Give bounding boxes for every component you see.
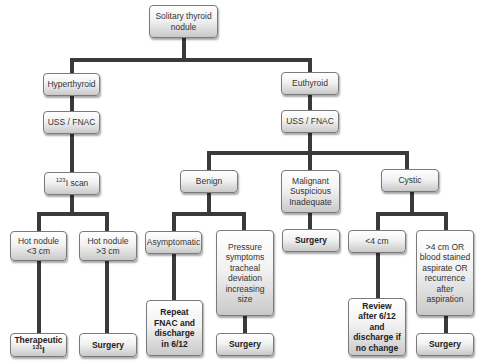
node-label: Benign: [196, 176, 222, 187]
node-label: Solitary thyroid nodule: [152, 11, 215, 32]
node-repeat-fnac: Repeat FNAC and discharge in 6/12: [146, 300, 203, 356]
node-label: Surgery: [429, 339, 461, 350]
node-label: 123I scan: [56, 178, 89, 189]
connector: [308, 58, 312, 72]
connector: [376, 212, 380, 230]
node-iodine-scan: 123I scan: [44, 172, 100, 195]
connector: [70, 58, 312, 62]
node-label: <4 cm: [365, 236, 388, 247]
node-root: Solitary thyroid nodule: [149, 5, 218, 38]
node-label-suffix: I: [42, 345, 44, 355]
node-label: Surgery: [295, 235, 327, 246]
node-large-cyst: >4 cm OR blood stained aspirate OR recur…: [416, 230, 474, 316]
node-label: Repeat FNAC and discharge in 6/12: [153, 307, 196, 349]
node-label: Cystic: [398, 175, 421, 186]
node-label-text: I scan: [66, 178, 89, 188]
connector: [308, 213, 312, 229]
node-label: Surgery: [229, 339, 261, 350]
connector: [207, 151, 211, 170]
connector: [405, 151, 409, 169]
node-label: Review after 6/12 and discharge if no ch…: [352, 301, 402, 354]
connector: [70, 134, 74, 172]
node-label: Asymptomatic: [147, 237, 200, 248]
node-hyperthyroid: Hyperthyroid: [43, 73, 100, 96]
connector: [243, 316, 247, 333]
node-benign: Benign: [180, 170, 238, 193]
node-label: Euthyroid: [292, 78, 328, 89]
node-label: Hyperthyroid: [47, 79, 95, 90]
node-small-cyst: <4 cm: [348, 230, 406, 253]
connector: [207, 151, 409, 155]
node-cystic: Cystic: [381, 169, 439, 192]
node-hot-nodule-large: Hot nodule >3 cm: [79, 231, 137, 261]
connector: [172, 212, 246, 216]
node-label-text: Therapeutic: [14, 335, 62, 345]
connector: [105, 212, 109, 231]
node-label: USS / FNAC: [286, 116, 334, 127]
node-asymptomatic: Asymptomatic: [145, 231, 202, 254]
node-hot-nodule-small: Hot nodule <3 cm: [10, 231, 67, 261]
node-label: Malignant Suspicious Inadequate: [284, 176, 337, 208]
connector: [376, 253, 380, 298]
connector: [37, 212, 41, 231]
connector: [70, 96, 74, 111]
node-label: Hot nodule <3 cm: [13, 236, 64, 257]
node-malignant: Malignant Suspicious Inadequate: [281, 170, 340, 213]
node-therapeutic-iodine: Therapeutic 131I: [10, 333, 67, 357]
node-surgery-pressure: Surgery: [216, 333, 274, 356]
node-label: Therapeutic 131I: [13, 335, 64, 356]
node-review: Review after 6/12 and discharge if no ch…: [348, 298, 406, 356]
connector: [70, 58, 74, 73]
node-euthyroid: Euthyroid: [281, 72, 339, 95]
node-eu-uss-fnac: USS / FNAC: [281, 110, 339, 133]
node-surgery-malignant: Surgery: [282, 229, 340, 252]
connector: [172, 212, 176, 231]
node-surgery-hot: Surgery: [79, 333, 137, 357]
isotope-superscript: 131: [32, 344, 42, 350]
node-surgery-cyst: Surgery: [416, 333, 474, 356]
connector: [308, 95, 312, 110]
connector: [37, 261, 41, 333]
node-hyper-uss-fnac: USS / FNAC: [43, 111, 100, 134]
node-label: USS / FNAC: [48, 117, 96, 128]
connector: [444, 316, 448, 333]
connector: [444, 212, 448, 230]
node-label: Hot nodule >3 cm: [82, 236, 134, 257]
node-label: Surgery: [92, 340, 124, 351]
node-label: >4 cm OR blood stained aspirate OR recur…: [418, 242, 472, 305]
connector: [172, 254, 176, 300]
connector: [37, 212, 109, 216]
isotope-superscript: 123: [56, 177, 66, 183]
connector: [242, 212, 246, 230]
connector: [376, 212, 448, 216]
node-pressure-symptoms: Pressure symptoms tracheal deviation inc…: [216, 230, 274, 316]
connector: [105, 261, 109, 333]
node-label: Pressure symptoms tracheal deviation inc…: [223, 242, 267, 305]
